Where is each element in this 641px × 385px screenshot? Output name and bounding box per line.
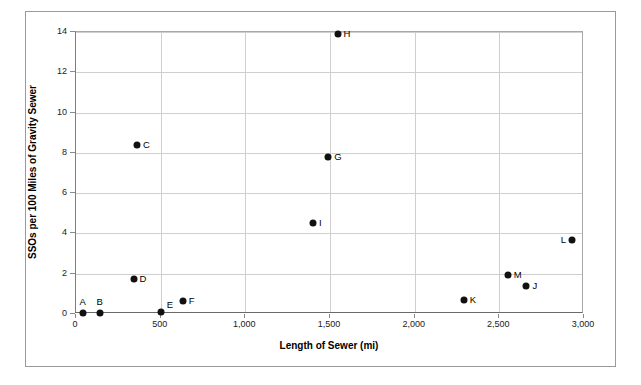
x-tick-mark <box>75 314 76 318</box>
y-tick-label: 2 <box>62 268 67 278</box>
y-axis-title: SSOs per 100 Miles of Gravity Sewer <box>26 31 40 313</box>
gridline-vertical <box>245 32 246 312</box>
gridline-horizontal <box>76 72 582 73</box>
y-tick-label: 12 <box>57 66 67 76</box>
y-tick-label: 0 <box>62 308 67 318</box>
data-point-f[interactable] <box>179 297 186 304</box>
x-tick-label: 1,500 <box>318 319 341 329</box>
x-tick-label: 2,000 <box>402 319 425 329</box>
data-point-label-i: I <box>319 218 322 228</box>
data-point-label-c: C <box>143 140 150 150</box>
x-axis-title: Length of Sewer (mi) <box>75 340 583 352</box>
gridline-horizontal <box>76 193 582 194</box>
data-point-h[interactable] <box>334 31 341 38</box>
data-point-c[interactable] <box>133 141 140 148</box>
y-tick-label: 4 <box>62 227 67 237</box>
data-point-a[interactable] <box>79 309 86 316</box>
y-tick-label: 10 <box>57 107 67 117</box>
data-point-label-g: G <box>334 152 341 162</box>
data-point-i[interactable] <box>310 220 317 227</box>
data-point-label-d: D <box>140 274 147 284</box>
x-tick-label: 1,000 <box>233 319 256 329</box>
data-point-label-m: M <box>514 270 522 280</box>
gridline-horizontal <box>76 233 582 234</box>
data-point-label-e: E <box>167 300 173 310</box>
gridline-horizontal <box>76 32 582 33</box>
data-point-l[interactable] <box>569 237 576 244</box>
gridline-horizontal <box>76 113 582 114</box>
x-tick-mark <box>329 314 330 318</box>
data-point-b[interactable] <box>96 309 103 316</box>
y-tick-label: 8 <box>62 147 67 157</box>
data-point-label-l: L <box>561 235 566 245</box>
x-tick-mark <box>414 314 415 318</box>
data-point-j[interactable] <box>523 282 530 289</box>
x-tick-mark <box>583 314 584 318</box>
y-tick-label: 14 <box>57 26 67 36</box>
x-tick-mark <box>244 314 245 318</box>
data-point-k[interactable] <box>460 296 467 303</box>
x-tick-mark <box>498 314 499 318</box>
x-tick-label: 500 <box>152 319 167 329</box>
data-point-d[interactable] <box>130 275 137 282</box>
gridline-vertical <box>499 32 500 312</box>
gridline-vertical <box>415 32 416 312</box>
data-point-m[interactable] <box>504 271 511 278</box>
data-point-label-k: K <box>470 295 476 305</box>
data-point-label-f: F <box>189 296 195 306</box>
gridline-vertical <box>161 32 162 312</box>
y-tick-label: 6 <box>62 187 67 197</box>
x-tick-label: 3,000 <box>572 319 595 329</box>
data-point-e[interactable] <box>157 308 164 315</box>
plot-area: ABCDEFGHIJKLM <box>75 31 583 313</box>
x-tick-label: 2,500 <box>487 319 510 329</box>
data-point-label-a: A <box>80 297 86 307</box>
gridline-vertical <box>330 32 331 312</box>
scatter-plot-figure: SSOs per 100 Miles of Gravity Sewer Leng… <box>0 0 641 385</box>
data-point-label-j: J <box>532 281 537 291</box>
x-tick-label: 0 <box>72 319 77 329</box>
data-point-label-b: B <box>97 297 103 307</box>
data-point-label-h: H <box>344 29 351 39</box>
data-point-g[interactable] <box>325 153 332 160</box>
